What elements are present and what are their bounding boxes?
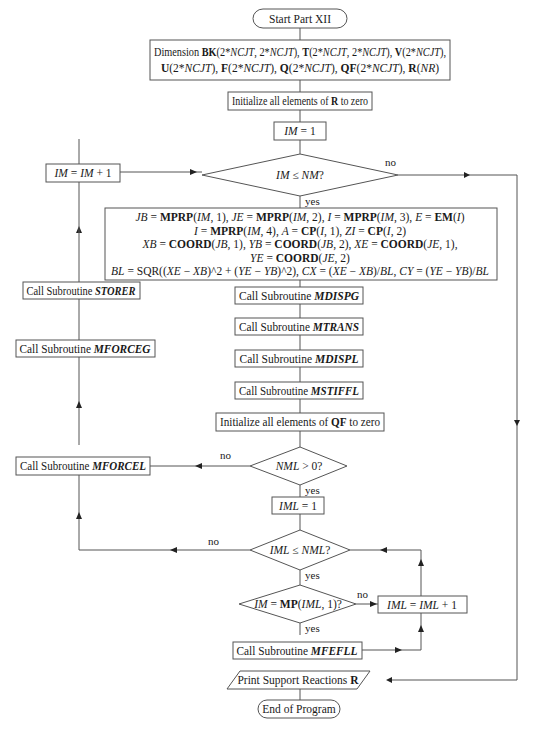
mfefll-label: Call Subroutine MFEFLL (237, 645, 358, 657)
start-terminal: Start Part XII (253, 9, 347, 28)
init-qf-box: Initialize all elements of QF to zero (216, 413, 384, 431)
start-label: Start Part XII (269, 13, 331, 25)
mforcel-box: Call Subroutine MFORCEL (16, 457, 150, 475)
im-le-nm-label: IM ≤ NM? (275, 169, 324, 181)
flowchart: Start Part XII Dimension BK(2*NCJT, 2*NC… (0, 0, 535, 730)
iml-le-nml-label: IML ≤ NML? (269, 544, 331, 556)
calc-line-1: JB = MPRP(IM, 1), JE = MPRP(IM, 2), I = … (136, 211, 465, 224)
iml-le-nml-no: no (208, 535, 220, 547)
init-r-label: Initialize all elements of R to zero (232, 95, 368, 107)
calc-line-5: BL = SQR((XE − XB)^2 + (YE − YB)^2), CX … (111, 265, 489, 278)
init-r-box: Initialize all elements of R to zero (228, 92, 372, 110)
nml-gt-0-label: NML > 0? (275, 460, 323, 472)
calc-line-2: I = MPRP(IM, 4), A = CP(I, 1), ZI = CP(I… (193, 225, 406, 238)
calc-line-3: XB = COORD(JB, 1), YB = COORD(JB, 2), XE… (141, 238, 457, 251)
print-reactions-io: Print Support Reactions R (227, 671, 370, 689)
im-increment-box: IM = IM + 1 (46, 164, 120, 182)
im-eq-mp-decision: IM = MP(IML, 1)? no yes (239, 585, 369, 634)
im-eq-mp-no: no (357, 588, 369, 600)
im-increment-label: IM = IM + 1 (53, 167, 111, 179)
mfefll-box: Call Subroutine MFEFLL (233, 642, 362, 659)
nml-gt-0-yes: yes (305, 484, 320, 496)
dimension-line-2: U(2*NCJT), F(2*NCJT), Q(2*NCJT), QF(2*NC… (161, 62, 439, 75)
storer-box: Call Subroutine STORER (23, 282, 140, 299)
iml-le-nml-decision: IML ≤ NML? no yes (208, 530, 350, 581)
dimension-box: Dimension BK(2*NCJT, 2*NCJT), T(2*NCJT, … (150, 40, 450, 80)
mforceg-box: Call Subroutine MFORCEG (16, 340, 155, 357)
im-eq-mp-yes: yes (305, 622, 320, 634)
mdispl-box: Call Subroutine MDISPL (235, 350, 363, 367)
mtrans-label: Call Subroutine MTRANS (239, 321, 359, 333)
nml-gt-0-decision: NML > 0? no yes (220, 447, 347, 496)
end-terminal: End of Program (258, 700, 340, 718)
calc-line-4: YE = COORD(JE, 2) (250, 252, 350, 265)
mdispl-label: Call Subroutine MDISPL (240, 353, 359, 365)
end-label: End of Program (262, 703, 336, 716)
im-le-nm-no: no (385, 156, 397, 168)
iml-init-label: IML = 1 (278, 500, 317, 512)
nml-gt-0-no: no (220, 449, 232, 461)
calc-box: JB = MPRP(IM, 1), JE = MPRP(IM, 2), I = … (105, 208, 497, 280)
iml-le-nml-yes: yes (305, 569, 320, 581)
mdispg-label: Call Subroutine MDISPG (239, 290, 360, 302)
mforcel-label: Call Subroutine MFORCEL (20, 460, 146, 472)
mstiffl-box: Call Subroutine MSTIFFL (235, 382, 363, 399)
iml-increment-box: IML = IML + 1 (378, 596, 467, 613)
init-qf-label: Initialize all elements of QF to zero (220, 416, 380, 428)
im-init-box: IM = 1 (274, 122, 326, 140)
mforceg-label: Call Subroutine MFORCEG (20, 343, 152, 355)
im-le-nm-yes: yes (305, 195, 320, 207)
mstiffl-label: Call Subroutine MSTIFFL (239, 385, 359, 397)
print-reactions-label: Print Support Reactions R (237, 674, 359, 687)
mdispg-box: Call Subroutine MDISPG (235, 287, 363, 304)
iml-increment-label: IML = IML + 1 (386, 599, 457, 611)
dimension-line-1: Dimension BK(2*NCJT, 2*NCJT), T(2*NCJT, … (154, 46, 446, 59)
im-init-label: IM = 1 (283, 125, 316, 137)
mtrans-box: Call Subroutine MTRANS (235, 318, 363, 335)
iml-init-box: IML = 1 (272, 497, 324, 514)
im-eq-mp-label: IM = MP(IML, 1)? (253, 598, 342, 611)
storer-label: Call Subroutine STORER (27, 285, 136, 297)
